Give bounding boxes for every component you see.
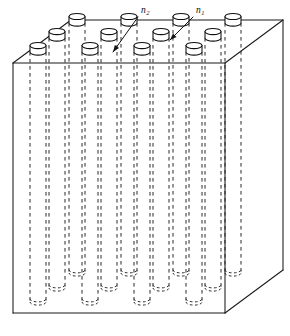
cylinder-top-ellipse <box>153 28 169 34</box>
box-faces <box>13 20 283 313</box>
label-group: n2n1 <box>141 5 205 16</box>
label-n1: n1 <box>196 5 205 16</box>
cylinder-top-ellipse <box>121 13 137 19</box>
cylinder-top-ellipse <box>101 28 117 34</box>
cylinder-top-ellipse <box>173 13 189 19</box>
cylinder-top-ellipse <box>225 13 241 19</box>
cylinder-top-ellipse <box>186 42 202 48</box>
front-face <box>13 63 225 313</box>
cylinder-top-ellipse <box>82 42 98 48</box>
label-n2: n2 <box>141 5 150 16</box>
cylinder-top-ellipse <box>134 42 150 48</box>
label-subscript-n2: 2 <box>146 9 150 16</box>
cylinder-top-ellipse <box>30 42 46 48</box>
cylinder-top-ellipse <box>205 28 221 34</box>
cylinder-top-ellipse <box>69 13 85 19</box>
cylinder-array-block-figure: n2n1 <box>0 0 290 336</box>
right-face <box>225 20 283 313</box>
label-subscript-n1: 1 <box>201 9 204 16</box>
label-base-n2: n <box>141 5 146 15</box>
label-base-n1: n <box>196 5 201 15</box>
cylinder-top-ellipse <box>49 28 65 34</box>
